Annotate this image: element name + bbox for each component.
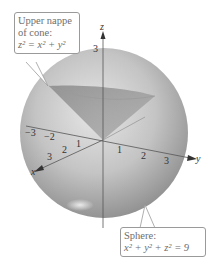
y-tick-3: 3 [164, 155, 169, 166]
y-tick-neg3: −3 [25, 127, 36, 138]
cone-callout-title2: of cone: [18, 27, 76, 39]
sphere-callout: Sphere: x² + y² + z² = 9 [120, 227, 206, 257]
cone-callout: Upper nappe of cone: z² = x² + y² [14, 12, 80, 54]
y-tick-neg2: −2 [44, 131, 55, 142]
y-tick-1: 1 [117, 144, 122, 155]
sphere-equation: x² + y² + z² = 9 [124, 242, 202, 254]
y-axis-label: y [195, 153, 201, 164]
sphere-callout-title: Sphere: [124, 230, 202, 242]
cone-equation: z² = x² + y² [18, 39, 76, 51]
x-tick-3: 3 [47, 151, 52, 162]
x-axis-label: x [30, 166, 36, 177]
x-tick-2: 2 [62, 144, 67, 155]
z-tick-3: 3 [93, 43, 98, 54]
x-tick-1: 1 [76, 138, 81, 149]
z-arrow-icon [101, 31, 106, 39]
cone-callout-title: Upper nappe [18, 15, 76, 27]
y-tick-2: 2 [141, 150, 146, 161]
sphere-highlight [66, 199, 94, 211]
z-axis-label: z [99, 21, 104, 32]
